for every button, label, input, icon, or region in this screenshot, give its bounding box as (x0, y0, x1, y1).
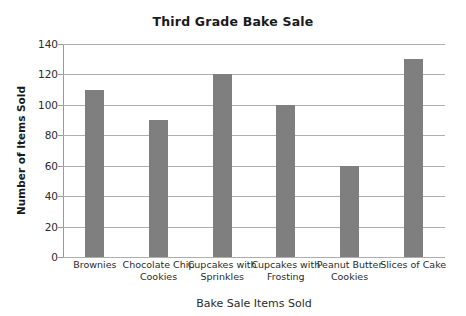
gridline (63, 135, 445, 136)
y-axis-tick-label: 0 (14, 251, 58, 263)
y-axis-tick-label: 140 (14, 38, 58, 50)
y-axis-tick-label: 60 (14, 160, 58, 172)
bar (213, 74, 232, 257)
gridline (63, 74, 445, 75)
y-axis-tick-label: 40 (14, 190, 58, 202)
gridline (63, 105, 445, 106)
x-axis-title: Bake Sale Items Sold (63, 297, 445, 310)
plot-area (63, 44, 445, 257)
chart-title: Third Grade Bake Sale (0, 14, 466, 29)
bar (85, 90, 104, 257)
y-axis-tick-label: 120 (14, 68, 58, 80)
gridline (63, 257, 445, 258)
y-axis-tick-labels: 020406080100120140 (10, 44, 58, 257)
bar-chart: Third Grade Bake Sale Number of Items So… (0, 0, 466, 316)
bar (276, 105, 295, 257)
bar (404, 59, 423, 257)
bar (340, 166, 359, 257)
y-axis-tick-label: 80 (14, 129, 58, 141)
gridline (63, 227, 445, 228)
gridline (63, 166, 445, 167)
gridline (63, 196, 445, 197)
gridline (63, 44, 445, 45)
y-axis-tick-label: 100 (14, 99, 58, 111)
x-axis-category-label: Slices of Cake (376, 259, 450, 271)
bar (149, 120, 168, 257)
y-axis-tick-label: 20 (14, 221, 58, 233)
